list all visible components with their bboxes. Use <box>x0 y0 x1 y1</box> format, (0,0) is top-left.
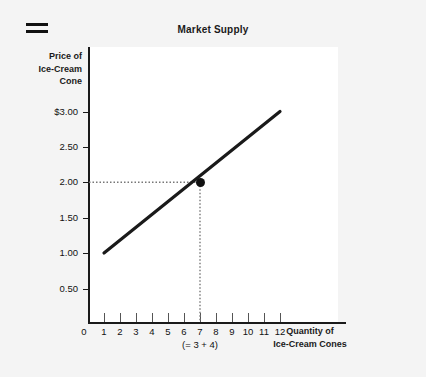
y-axis-tick <box>83 253 90 254</box>
market-supply-chart-page: Market Supply Price of Ice-Cream Cone Qu… <box>0 0 426 377</box>
x-axis-tick <box>184 313 185 322</box>
y-axis-tick <box>83 147 90 148</box>
x-axis-tick <box>232 313 233 322</box>
x-axis-line <box>88 322 346 324</box>
x-axis-tick <box>200 313 201 322</box>
page-title: Market Supply <box>0 24 426 35</box>
x-axis-tick <box>248 313 249 322</box>
plot-area <box>89 47 338 323</box>
y-axis-tick-label: 0.50 <box>32 283 78 294</box>
y-axis-tick-label: $3.00 <box>32 106 78 117</box>
x-axis-tick <box>136 313 137 322</box>
x-axis-tick <box>280 313 281 322</box>
y-axis-tick <box>83 218 90 219</box>
x-axis-tick <box>152 313 153 322</box>
y-axis-tick <box>83 112 90 113</box>
y-axis-title-line-1: Price of <box>2 50 82 63</box>
y-axis-line <box>88 47 90 324</box>
y-axis-tick <box>83 182 90 183</box>
y-axis-tick-label: 1.50 <box>32 212 78 223</box>
y-axis-title-line-3: Cone <box>2 75 82 88</box>
x-axis-tick <box>120 313 121 322</box>
y-axis-tick-label: 2.00 <box>32 176 78 187</box>
y-axis-tick-label: 1.00 <box>32 247 78 258</box>
y-axis-tick <box>83 289 90 290</box>
y-axis-tick-label: 2.50 <box>32 141 78 152</box>
x-axis-tick <box>168 313 169 322</box>
x-axis-tick <box>264 313 265 322</box>
x-axis-tick <box>104 313 105 322</box>
x-axis-tick <box>216 313 217 322</box>
y-axis-title-line-2: Ice-Cream <box>2 63 82 76</box>
equilibrium-quantity-note: (= 3 + 4) <box>155 339 245 350</box>
x-axis-tick-label: 12 <box>270 326 290 337</box>
x-axis-title-line-2: Ice-Cream Cones <box>250 338 370 351</box>
x-axis-origin-label: 0 <box>74 326 94 337</box>
equilibrium-point-marker <box>196 178 205 187</box>
y-axis-title: Price of Ice-Cream Cone <box>2 50 82 88</box>
